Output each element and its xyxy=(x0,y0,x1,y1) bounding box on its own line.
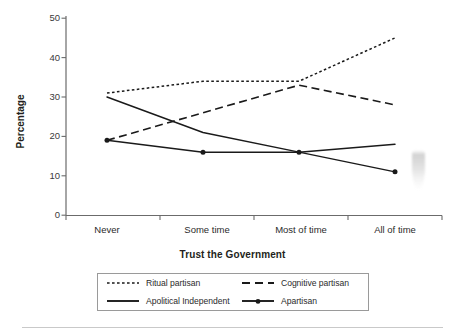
y-tick-marks xyxy=(62,18,67,215)
legend-entry-apolitical-independent: Apolitical Independent xyxy=(98,296,233,306)
axis-lines xyxy=(66,16,442,216)
legend-label-apolitical-independent: Apolitical Independent xyxy=(146,296,229,306)
y-tick-label-10: 10 xyxy=(38,171,60,181)
legend-label-apartisan: Apartisan xyxy=(281,296,317,306)
chart-figure: 50 40 30 20 10 0 Percentage Never Some t… xyxy=(0,0,465,330)
series-apolitical-independent-line xyxy=(107,97,395,152)
x-axis-title: Trust the Government xyxy=(0,249,465,260)
series-apartisan-markers xyxy=(105,138,398,175)
y-tick-label-30: 30 xyxy=(38,92,60,102)
x-tick-label-never: Never xyxy=(94,224,119,235)
series-ritual-partisan-line xyxy=(107,38,395,93)
page-bottom-rule xyxy=(22,327,443,328)
series-apartisan-line xyxy=(107,140,395,172)
data-point-marker xyxy=(201,150,206,155)
legend-swatch-solid-marker-icon xyxy=(242,296,274,306)
x-tick-label-some-time: Some time xyxy=(184,224,229,235)
legend-swatch-solid-icon xyxy=(107,296,139,306)
y-tick-label-0: 0 xyxy=(38,210,60,220)
legend-entry-ritual-partisan: Ritual partisan xyxy=(98,278,233,288)
x-tick-label-all-of-time: All of time xyxy=(374,224,416,235)
data-point-marker xyxy=(393,169,398,174)
y-axis-title: Percentage xyxy=(15,79,26,165)
y-tick-label-20: 20 xyxy=(38,132,60,142)
legend-swatch-dotted-icon xyxy=(107,278,139,288)
legend-label-ritual-partisan: Ritual partisan xyxy=(146,278,200,288)
legend-entry-cognitive-partisan: Cognitive partisan xyxy=(233,278,368,288)
y-tick-label-40: 40 xyxy=(38,53,60,63)
x-tick-marks xyxy=(66,216,442,221)
legend-swatch-dashed-icon xyxy=(242,278,274,288)
data-point-marker xyxy=(297,150,302,155)
x-tick-label-most-of-time: Most of time xyxy=(275,224,327,235)
data-point-marker xyxy=(105,138,110,143)
legend-entry-apartisan: Apartisan xyxy=(233,296,368,306)
y-tick-label-50: 50 xyxy=(38,13,60,23)
legend-label-cognitive-partisan: Cognitive partisan xyxy=(281,278,349,288)
y-axis-tick-labels: 50 40 30 20 10 0 xyxy=(36,0,60,330)
chart-legend: Ritual partisan Cognitive partisan Apoli… xyxy=(97,273,369,311)
